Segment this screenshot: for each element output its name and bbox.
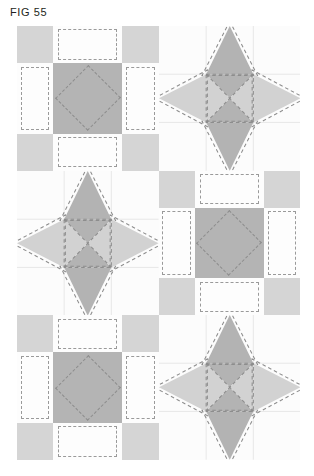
patch-corner [264, 171, 300, 208]
block-nine-patch [17, 26, 159, 171]
stitch-diamond [196, 210, 262, 276]
patch-edge-right [122, 352, 158, 422]
patch-corner [264, 278, 300, 315]
stitch-rect [21, 356, 49, 419]
patch-edge-top [195, 171, 264, 208]
patch-edge-bottom [53, 423, 122, 460]
figure-label: FIG 55 [10, 6, 47, 18]
stitch-rect [58, 137, 117, 167]
patch-edge-right [122, 63, 158, 133]
patch-edge-right [264, 208, 300, 278]
stitch-rect [268, 211, 296, 274]
block-nine-patch [17, 315, 159, 460]
patch-edge-left [17, 352, 53, 422]
patch-corner [17, 26, 53, 63]
stitch-diamond [55, 355, 121, 421]
patch-edge-top [53, 315, 122, 352]
patch-corner [159, 171, 195, 208]
patch-edge-bottom [195, 278, 264, 315]
stitch-rect [58, 426, 117, 456]
block-star [17, 171, 159, 316]
patch-edge-left [17, 63, 53, 133]
patch-corner [122, 134, 158, 171]
stitch-rect [200, 174, 259, 204]
patch-center [53, 352, 122, 422]
star-drawing [159, 315, 301, 460]
block-star [159, 26, 301, 171]
stitch-diamond [55, 65, 121, 131]
block-nine-patch [159, 171, 301, 316]
stitch-rect [200, 282, 259, 312]
patch-corner [17, 315, 53, 352]
patch-corner [122, 315, 158, 352]
patch-edge-top [53, 26, 122, 63]
stitch-rect [21, 67, 49, 130]
patch-corner [159, 278, 195, 315]
patch-corner [122, 26, 158, 63]
patch-center [195, 208, 264, 278]
star-drawing [159, 26, 301, 171]
patch-corner [17, 134, 53, 171]
star-drawing [17, 171, 159, 316]
stitch-rect [126, 67, 154, 130]
stitch-rect [162, 211, 190, 274]
patch-corner [17, 423, 53, 460]
stitch-rect [58, 29, 117, 59]
block-star [159, 315, 301, 460]
patch-edge-left [159, 208, 195, 278]
patch-edge-bottom [53, 134, 122, 171]
patch-corner [122, 423, 158, 460]
stitch-rect [126, 356, 154, 419]
quilt-layout-grid [17, 26, 300, 460]
patch-center [53, 63, 122, 133]
stitch-rect [58, 319, 117, 349]
